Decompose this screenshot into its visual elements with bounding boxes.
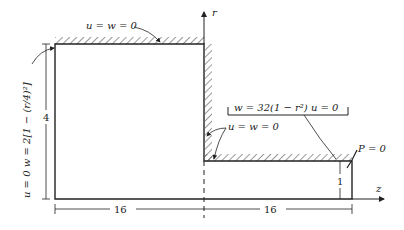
outlet-profile-bc-label: w = 32(1 − r²) u = 0 (234, 102, 339, 113)
step-wall-bc-label: u = w = 0 (228, 121, 279, 132)
z-axis-label: z (375, 183, 382, 194)
channel-diagram: r z u = w = 0 u = w = 0 w = 32(1 − r²) u… (0, 0, 404, 230)
dim-left-length-label: 16 (114, 204, 127, 215)
dim-outlet-height-label: 1 (337, 176, 343, 187)
lower-wall-hatch (205, 154, 352, 161)
r-axis-label: r (212, 7, 218, 18)
outlet-pressure-bc-label: P = 0 (357, 143, 386, 154)
dim-right-length-label: 16 (264, 204, 277, 215)
inlet-leader (32, 48, 54, 64)
outlet-profile-leader (304, 115, 336, 159)
inlet-bc-label: u = 0 w = 2[1 − (r/4)²] (21, 82, 32, 198)
dim-inlet-height-label: 4 (43, 112, 49, 123)
step-wall-hatch (205, 44, 212, 161)
top-wall-bc-label: u = w = 0 (86, 20, 137, 31)
top-wall-hatch (55, 37, 205, 44)
domain-outline (55, 44, 352, 199)
